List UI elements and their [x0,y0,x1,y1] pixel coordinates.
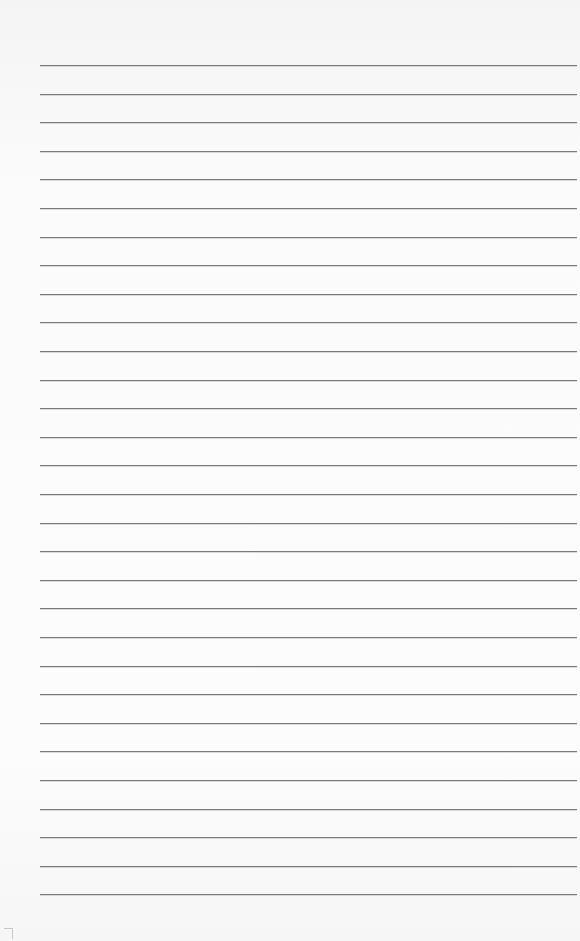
ruled-line [40,151,577,152]
ruled-line [40,437,577,438]
ruled-line [40,551,577,552]
ruled-line [40,523,577,524]
ruled-line [40,94,577,95]
ruled-line [40,65,577,66]
ruled-line [40,637,577,638]
ruled-line [40,723,577,724]
ruled-line [40,122,577,123]
ruled-line [40,179,577,180]
ruled-line [40,894,577,895]
ruled-line [40,351,577,352]
ruled-line [40,294,577,295]
ruled-line [40,322,577,323]
ruled-line [40,837,577,838]
ruled-line [40,237,577,238]
ruled-line [40,380,577,381]
ruled-line [40,666,577,667]
ruled-line [40,494,577,495]
ruled-line [40,580,577,581]
ruled-line [40,465,577,466]
ruled-line [40,608,577,609]
ruled-line [40,780,577,781]
lined-paper-sheet [0,0,580,941]
ruled-line [40,208,577,209]
ruled-line [40,408,577,409]
ruled-line [40,809,577,810]
ruled-line [40,694,577,695]
ruled-line [40,866,577,867]
ruled-line [40,751,577,752]
ruled-line [40,265,577,266]
corner-mark [4,928,13,939]
